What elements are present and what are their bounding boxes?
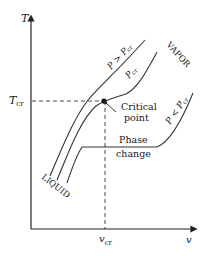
critical-point-pointer bbox=[107, 104, 116, 112]
x-axis-label: v bbox=[186, 234, 192, 245]
critical-point-label-line2: point bbox=[124, 112, 149, 123]
v-cr-label: vcr bbox=[99, 233, 113, 247]
vapor-region-label: VAPOR bbox=[164, 39, 193, 70]
critical-point-marker bbox=[101, 98, 106, 103]
critical-point-label-line1: Critical bbox=[121, 101, 157, 112]
phase-change-label-line1: Phase bbox=[119, 134, 148, 145]
t-cr-label: Tcr bbox=[9, 94, 24, 108]
phase-change-label-line2: change bbox=[116, 148, 151, 159]
liquid-region-label: LIQUID bbox=[40, 172, 73, 200]
y-axis-label: T bbox=[21, 12, 30, 25]
tv-diagram: T v Tcr vcr P > Pcr Pcr P < Pcr VAPOR LI… bbox=[0, 0, 208, 256]
label-critical: Pcr bbox=[122, 64, 138, 81]
